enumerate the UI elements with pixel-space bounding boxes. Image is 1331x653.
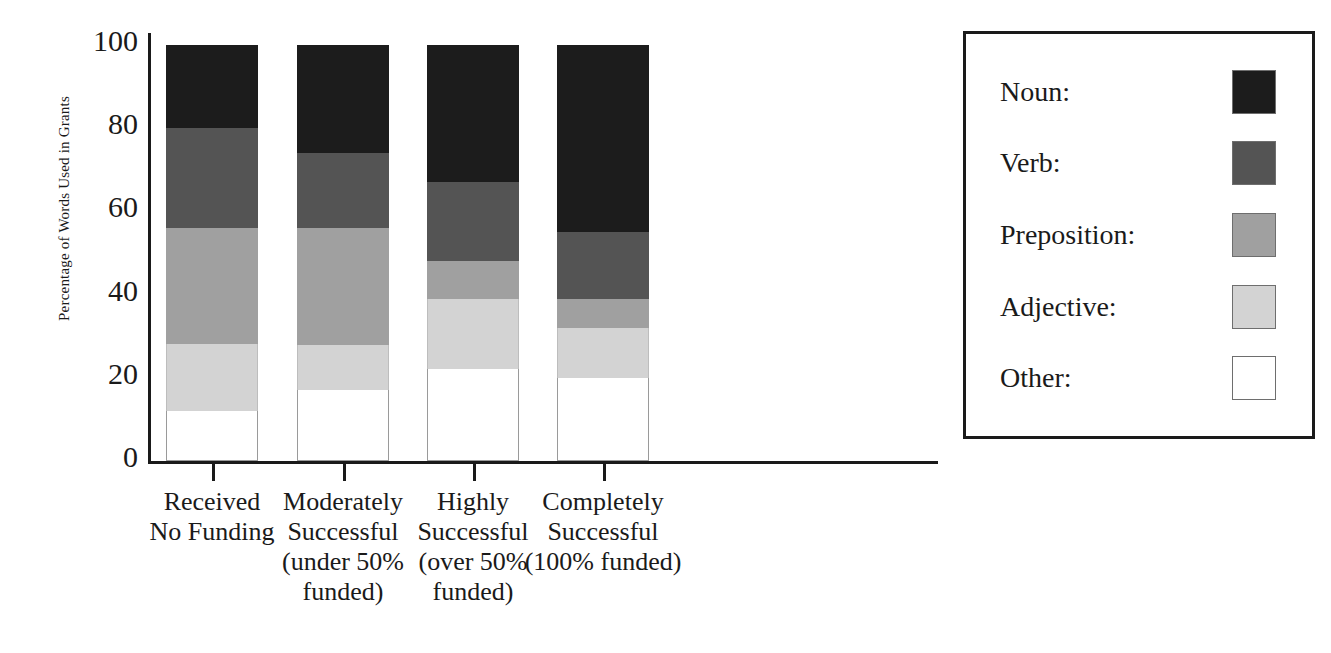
bar-segment-other[interactable] bbox=[166, 411, 258, 461]
bar-segment-noun[interactable] bbox=[557, 45, 649, 232]
bar-segment-preposition[interactable] bbox=[427, 261, 519, 298]
stacked-bar-chart: Percentage of Words Used in Grants 02040… bbox=[0, 0, 1331, 653]
x-axis-category-label-line: funded) bbox=[358, 577, 588, 607]
bar-4[interactable] bbox=[557, 45, 649, 461]
legend-item-label: Adjective: bbox=[1000, 291, 1117, 323]
legend-swatch-icon bbox=[1232, 70, 1276, 114]
bar-2[interactable] bbox=[297, 45, 389, 461]
bar-1[interactable] bbox=[166, 45, 258, 461]
legend-item-label: Preposition: bbox=[1000, 219, 1135, 251]
legend-item-label: Verb: bbox=[1000, 147, 1061, 179]
legend-item-label: Noun: bbox=[1000, 76, 1070, 108]
bar-segment-other[interactable] bbox=[557, 378, 649, 461]
x-axis-tick-mark bbox=[473, 464, 476, 481]
x-axis-tick-mark bbox=[343, 464, 346, 481]
bar-segment-noun[interactable] bbox=[166, 45, 258, 128]
bar-segment-verb[interactable] bbox=[166, 128, 258, 228]
x-axis-category-label-line: (100% funded) bbox=[488, 547, 718, 577]
x-axis-tick-mark bbox=[212, 464, 215, 481]
legend-swatch-icon bbox=[1232, 141, 1276, 185]
bar-segment-preposition[interactable] bbox=[297, 228, 389, 344]
x-axis-category-label-line: Completely bbox=[488, 487, 718, 517]
x-axis-category-label: CompletelySuccessful(100% funded) bbox=[488, 487, 718, 577]
bar-segment-adjective[interactable] bbox=[297, 345, 389, 391]
legend-swatch-icon bbox=[1232, 356, 1276, 400]
bar-3[interactable] bbox=[427, 45, 519, 461]
legend-item-noun[interactable]: Noun: bbox=[1000, 63, 1284, 121]
legend-item-adjective[interactable]: Adjective: bbox=[1000, 278, 1284, 336]
legend: Noun:Verb:Preposition:Adjective:Other: bbox=[963, 31, 1315, 439]
bar-segment-noun[interactable] bbox=[427, 45, 519, 182]
bar-segment-verb[interactable] bbox=[557, 232, 649, 299]
bar-segment-verb[interactable] bbox=[297, 153, 389, 228]
legend-item-verb[interactable]: Verb: bbox=[1000, 134, 1284, 192]
bar-segment-preposition[interactable] bbox=[557, 299, 649, 328]
x-axis-category-label-line: Successful bbox=[488, 517, 718, 547]
bar-segment-adjective[interactable] bbox=[557, 328, 649, 378]
bar-segment-adjective[interactable] bbox=[166, 344, 258, 411]
bar-segment-other[interactable] bbox=[427, 369, 519, 461]
bar-segment-preposition[interactable] bbox=[166, 228, 258, 344]
legend-swatch-icon bbox=[1232, 213, 1276, 257]
bar-segment-adjective[interactable] bbox=[427, 299, 519, 370]
legend-item-label: Other: bbox=[1000, 362, 1072, 394]
legend-swatch-icon bbox=[1232, 285, 1276, 329]
bar-segment-noun[interactable] bbox=[297, 45, 389, 153]
legend-item-preposition[interactable]: Preposition: bbox=[1000, 206, 1284, 264]
plot-area: ReceivedNo FundingModeratelySuccessful(u… bbox=[0, 0, 960, 470]
bar-segment-verb[interactable] bbox=[427, 182, 519, 261]
bar-segment-other[interactable] bbox=[297, 390, 389, 461]
x-axis-tick-mark bbox=[603, 464, 606, 481]
legend-item-other[interactable]: Other: bbox=[1000, 349, 1284, 407]
